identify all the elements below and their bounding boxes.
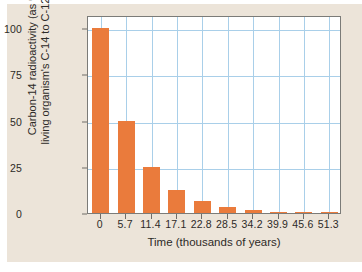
x-axis-tick-label: 51.3 [305, 218, 351, 230]
x-axis-tick-mark [125, 214, 126, 219]
x-axis-title: Time (thousands of years) [87, 236, 341, 248]
gridline-vertical [228, 17, 229, 213]
y-axis-tick-label: 100 [0, 23, 22, 35]
x-axis-tick-mark [303, 214, 304, 219]
x-axis-tick-mark [227, 214, 228, 219]
gridline-horizontal [88, 76, 340, 77]
y-axis-title-line1: Carbon-14 radioactivity (as % of [26, 0, 39, 155]
bar [295, 212, 312, 213]
bar [321, 212, 338, 213]
x-axis-tick-mark [176, 214, 177, 219]
bar [219, 207, 236, 213]
gridline-vertical [279, 17, 280, 213]
gridline-vertical [304, 17, 305, 213]
gridline-vertical [177, 17, 178, 213]
x-axis-tick-mark [252, 214, 253, 219]
y-axis-tick-label: 0 [0, 208, 22, 220]
bar [168, 190, 185, 213]
bar [245, 210, 262, 213]
y-axis-tick-label: 75 [0, 69, 22, 81]
bar [92, 28, 109, 213]
x-axis-tick-mark [201, 214, 202, 219]
x-axis-tick-mark [151, 214, 152, 219]
y-axis-tick-label: 50 [0, 116, 22, 128]
y-axis-tick-label: 25 [0, 162, 22, 174]
x-axis-tick-mark [328, 214, 329, 219]
bar [194, 201, 211, 213]
gridline-vertical [253, 17, 254, 213]
x-axis-tick-mark [100, 214, 101, 219]
y-axis-title: Carbon-14 radioactivity (as % of living … [26, 0, 52, 155]
figure-panel: Carbon-14 radioactivity (as % of living … [7, 4, 362, 262]
bar [143, 167, 160, 213]
x-axis-tick-mark [278, 214, 279, 219]
bar [118, 121, 135, 214]
bar [270, 212, 287, 213]
plot-area [87, 16, 341, 214]
y-axis-title-line2: living organism's C-14 to C-12 ratio) [39, 0, 52, 155]
gridline-vertical [202, 17, 203, 213]
gridline-horizontal [88, 30, 340, 31]
gridline-vertical [329, 17, 330, 213]
